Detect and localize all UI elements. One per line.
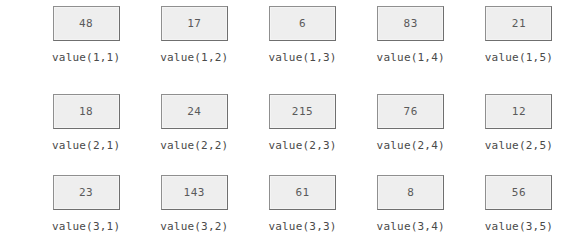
value-text: 48 (79, 18, 93, 29)
value-box[interactable]: 143 (161, 175, 228, 210)
value-label: value(2,3) (268, 139, 336, 152)
value-cell: 48 value(1,1) (32, 6, 140, 80)
value-text: 8 (407, 187, 414, 198)
value-text: 12 (512, 106, 526, 117)
value-cell: 24 value(2,2) (140, 94, 248, 168)
value-label: value(1,2) (160, 51, 228, 64)
value-text: 215 (292, 106, 313, 117)
value-cell: 83 value(1,4) (357, 6, 465, 80)
value-text: 21 (512, 18, 526, 29)
value-label: value(2,4) (377, 139, 445, 152)
value-box[interactable]: 17 (161, 6, 228, 41)
value-box[interactable]: 76 (377, 94, 444, 129)
value-label: value(1,3) (268, 51, 336, 64)
value-text: 17 (187, 18, 201, 29)
value-cell: 17 value(1,2) (140, 6, 248, 80)
value-cell: 61 value(3,3) (248, 175, 356, 243)
value-label: value(3,2) (160, 220, 228, 233)
value-cell: 23 value(3,1) (32, 175, 140, 243)
value-box[interactable]: 21 (485, 6, 552, 41)
value-grid-row: 23 value(3,1) 143 value(3,2) 61 value(3,… (0, 175, 573, 243)
value-cell: 215 value(2,3) (248, 94, 356, 168)
value-text: 61 (295, 187, 309, 198)
value-label: value(1,4) (377, 51, 445, 64)
value-text: 76 (404, 106, 418, 117)
value-text: 143 (184, 187, 205, 198)
value-box[interactable]: 6 (269, 6, 336, 41)
value-box[interactable]: 18 (53, 94, 120, 129)
value-cell: 143 value(3,2) (140, 175, 248, 243)
value-text: 6 (299, 18, 306, 29)
value-cell: 76 value(2,4) (357, 94, 465, 168)
value-cell: 21 value(1,5) (465, 6, 573, 80)
value-cell: 8 value(3,4) (357, 175, 465, 243)
value-grid-row: 48 value(1,1) 17 value(1,2) 6 value(1,3)… (0, 6, 573, 80)
value-label: value(3,1) (52, 220, 120, 233)
value-cell: 18 value(2,1) (32, 94, 140, 168)
value-box[interactable]: 48 (53, 6, 120, 41)
value-text: 56 (512, 187, 526, 198)
value-label: value(1,1) (52, 51, 120, 64)
value-box[interactable]: 215 (269, 94, 336, 129)
value-text: 23 (79, 187, 93, 198)
value-grid-row: 18 value(2,1) 24 value(2,2) 215 value(2,… (0, 94, 573, 168)
value-box[interactable]: 61 (269, 175, 336, 210)
value-box[interactable]: 12 (485, 94, 552, 129)
value-box[interactable]: 56 (485, 175, 552, 210)
value-cell: 56 value(3,5) (465, 175, 573, 243)
value-label: value(2,2) (160, 139, 228, 152)
value-text: 18 (79, 106, 93, 117)
value-box[interactable]: 24 (161, 94, 228, 129)
value-cell: 6 value(1,3) (248, 6, 356, 80)
value-text: 83 (404, 18, 418, 29)
value-box[interactable]: 8 (377, 175, 444, 210)
value-text: 24 (187, 106, 201, 117)
value-box[interactable]: 83 (377, 6, 444, 41)
value-label: value(3,4) (377, 220, 445, 233)
value-label: value(1,5) (485, 51, 553, 64)
value-grid: 48 value(1,1) 17 value(1,2) 6 value(1,3)… (0, 0, 573, 243)
value-label: value(2,1) (52, 139, 120, 152)
value-box[interactable]: 23 (53, 175, 120, 210)
value-label: value(3,5) (485, 220, 553, 233)
value-label: value(3,3) (268, 220, 336, 233)
value-label: value(2,5) (485, 139, 553, 152)
value-cell: 12 value(2,5) (465, 94, 573, 168)
